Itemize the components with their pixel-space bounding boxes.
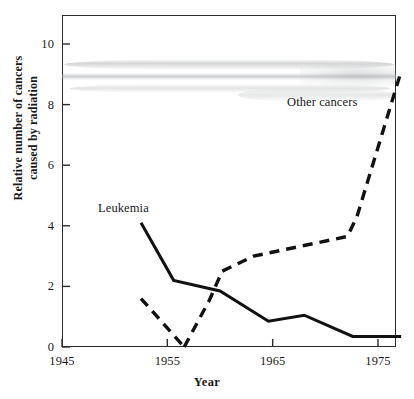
x-axis-title: Year — [0, 375, 414, 390]
series-label-leukemia: Leukemia — [98, 202, 149, 215]
series-label-other-cancers: Other cancers — [287, 96, 357, 109]
chart-figure: 0246810 1945195519651975 Relative number… — [0, 0, 414, 399]
y-axis-title-line1: Relative number of cancers — [11, 33, 26, 223]
x-tick-label: 1945 — [35, 355, 89, 368]
plot-frame — [62, 15, 396, 347]
x-tick-label: 1955 — [140, 355, 194, 368]
y-tick-label: 2 — [28, 280, 54, 293]
x-tick-label: 1975 — [351, 355, 405, 368]
y-tick-label: 0 — [28, 341, 54, 354]
y-axis-title-line2: caused by radiation — [26, 33, 41, 223]
x-tick-label: 1965 — [246, 355, 300, 368]
y-axis-title: Relative number of cancers caused by rad… — [11, 33, 47, 223]
